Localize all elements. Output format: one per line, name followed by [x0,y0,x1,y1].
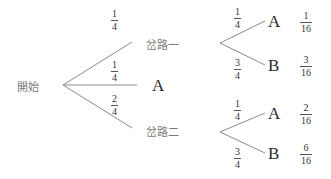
result-fork1-a: 1 16 [300,11,312,34]
prob-fork1-b: 3 4 [234,58,241,81]
result-fork2-a: 2 16 [300,103,312,126]
node-fork2: 岔路二 [146,123,179,139]
branch-fork2-b [220,132,265,153]
tree-branches [0,0,331,179]
outcome-fork1-a: A [268,12,280,32]
branch-start-fork2 [63,85,132,128]
branch-fork1-a [220,21,265,43]
branch-fork2-a [220,113,265,132]
root-label-start: 開始 [17,78,39,94]
prob-fork2-a: 1 4 [234,99,241,122]
prob-fork2-b: 3 4 [234,147,241,170]
branch-fork1-b [220,43,265,65]
prob-start-fork1: 1 4 [111,9,118,32]
branch-start-fork1 [63,42,132,85]
result-fork2-b: 6 16 [300,143,312,166]
node-fork1: 岔路一 [146,36,179,52]
probability-tree-diagram: 開始 1 4 1 4 2 4 岔路一 A 岔路二 1 4 3 4 A B 1 1… [0,0,331,179]
outcome-fork2-a: A [268,104,280,124]
node-a: A [152,76,164,96]
outcome-fork2-b: B [268,144,279,164]
prob-start-a: 1 4 [111,60,118,83]
prob-start-fork2: 2 4 [111,94,118,117]
prob-fork1-a: 1 4 [234,7,241,30]
result-fork1-b: 3 16 [300,55,312,78]
outcome-fork1-b: B [268,56,279,76]
